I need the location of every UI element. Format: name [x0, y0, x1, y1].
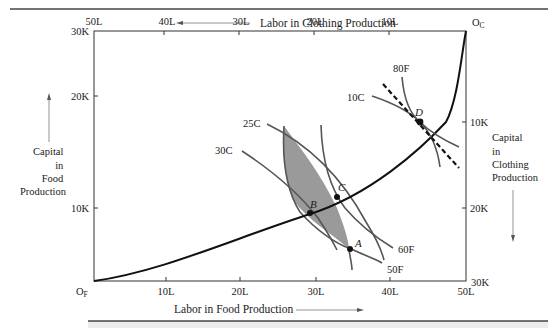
- right-arrow-head-icon: [357, 308, 364, 312]
- bottom-tick: 10L: [158, 286, 175, 297]
- origin-clothing-label: OC: [472, 17, 485, 30]
- edgeworth-box-diagram: Labor in Clothing Production 50L 40L 30L…: [0, 0, 558, 328]
- left-axis-title: Capital in Food Production: [20, 146, 67, 197]
- origin-food-label: OF: [76, 286, 88, 299]
- point-b: [307, 210, 313, 216]
- right-tick: 10K: [470, 117, 489, 128]
- bottom-tick: 40L: [382, 286, 399, 297]
- point-c: [334, 194, 340, 200]
- top-tick: 10L: [382, 16, 399, 27]
- right-tick: 20K: [470, 203, 489, 214]
- bottom-tick: 50L: [458, 286, 475, 297]
- tangent-line-d: [383, 84, 459, 168]
- isoquant-50f-lower: [349, 249, 352, 270]
- point-label-a: A: [354, 237, 362, 249]
- down-arrow-head-icon: [511, 235, 515, 242]
- point-d: [417, 119, 424, 126]
- point-label-b: B: [310, 198, 317, 210]
- isoquant-label-50f: 50F: [387, 264, 404, 275]
- left-tick: 20K: [71, 91, 90, 102]
- bottom-tick: 30L: [308, 286, 325, 297]
- top-axis-title: Labor in Clothing Production: [260, 17, 396, 30]
- top-tick: 30L: [233, 16, 250, 27]
- top-tick: 40L: [159, 16, 176, 27]
- isoquant-label-80f: 80F: [393, 63, 410, 74]
- isoquant-label-10c: 10C: [347, 92, 365, 103]
- bottom-band: [88, 321, 548, 328]
- left-tick: 10K: [71, 203, 90, 214]
- point-label-d: D: [414, 106, 423, 118]
- left-tick: 30K: [71, 26, 90, 37]
- bottom-tick: 20L: [232, 286, 249, 297]
- top-tick: 20L: [307, 16, 324, 27]
- point-a: [347, 246, 353, 252]
- isoquant-label-30c: 30C: [215, 145, 233, 156]
- right-axis-title: Capital in Clothing Production: [492, 132, 539, 183]
- point-label-c: C: [338, 181, 346, 193]
- isoquant-label-60f: 60F: [398, 244, 415, 255]
- up-arrow-head-icon: [47, 93, 51, 100]
- bottom-axis-title: Labor in Food Production: [174, 303, 293, 315]
- isoquant-label-25c: 25C: [243, 118, 261, 129]
- top-arrow-head-icon: [176, 21, 183, 25]
